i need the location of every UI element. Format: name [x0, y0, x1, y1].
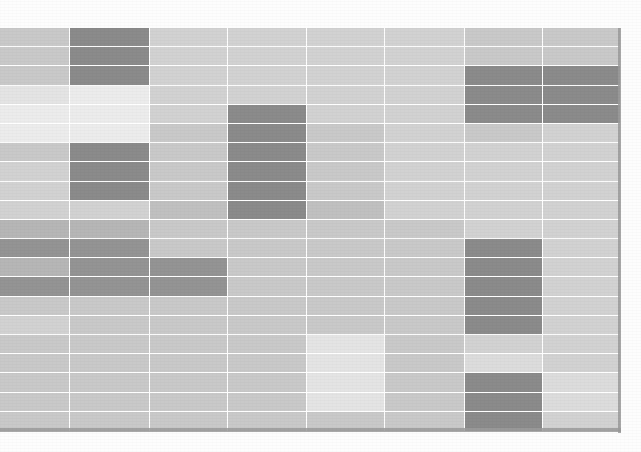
- heatmap-cell: [150, 86, 228, 105]
- heatmap-cell: [150, 258, 228, 277]
- heatmap-cell: [0, 162, 70, 181]
- heatmap-cell: [70, 162, 150, 181]
- figure-page: [0, 0, 641, 452]
- heatmap-cell: [150, 124, 228, 143]
- heatmap-cell: [385, 297, 465, 316]
- heatmap-cell: [385, 316, 465, 335]
- heatmap-cell: [385, 143, 465, 162]
- heatmap-cell: [307, 105, 385, 124]
- heatmap-cell: [0, 124, 70, 143]
- heatmap-cell: [228, 182, 307, 201]
- heatmap-cell: [543, 220, 620, 239]
- heatmap-cell: [307, 393, 385, 412]
- heatmap-cell: [70, 28, 150, 47]
- heatmap-cell: [150, 47, 228, 66]
- heatmap-cell: [385, 86, 465, 105]
- heatmap-cell: [543, 86, 620, 105]
- plot-bottom-edge-shadow: [0, 428, 621, 432]
- heatmap-cell: [307, 124, 385, 143]
- heatmap-cell: [0, 182, 70, 201]
- heatmap-cell: [465, 86, 543, 105]
- heatmap-cell: [307, 335, 385, 354]
- heatmap-cell: [465, 47, 543, 66]
- heatmap-cell: [228, 354, 307, 373]
- heatmap-cell: [385, 201, 465, 220]
- heatmap-cell: [228, 220, 307, 239]
- heatmap-cell: [465, 316, 543, 335]
- heatmap-cell: [150, 373, 228, 392]
- heatmap-cell: [228, 393, 307, 412]
- heatmap-cell: [0, 28, 70, 47]
- heatmap-cell: [385, 66, 465, 85]
- heatmap-cell: [228, 258, 307, 277]
- heatmap-cell: [228, 201, 307, 220]
- heatmap-cell: [150, 239, 228, 258]
- heatmap-cell: [465, 143, 543, 162]
- heatmap-cell: [385, 28, 465, 47]
- heatmap-cell: [543, 297, 620, 316]
- heatmap-cell: [385, 277, 465, 296]
- heatmap-cell: [543, 258, 620, 277]
- heatmap-cell: [0, 143, 70, 162]
- heatmap-cell: [150, 354, 228, 373]
- heatmap-cell: [0, 86, 70, 105]
- heatmap-cell: [465, 220, 543, 239]
- heatmap-cell: [385, 239, 465, 258]
- heatmap-cell: [0, 220, 70, 239]
- heatmap-cell: [0, 354, 70, 373]
- heatmap-cell: [228, 316, 307, 335]
- heatmap-cell: [150, 393, 228, 412]
- heatmap-cell: [228, 373, 307, 392]
- heatmap-cell: [385, 105, 465, 124]
- heatmap-cell: [70, 373, 150, 392]
- heatmap-cell: [307, 47, 385, 66]
- heatmap-cell: [307, 258, 385, 277]
- heatmap-cell: [150, 143, 228, 162]
- heatmap-cell: [228, 105, 307, 124]
- heatmap-cell: [70, 258, 150, 277]
- heatmap-cell: [150, 28, 228, 47]
- heatmap-cell: [543, 143, 620, 162]
- heatmap-cell: [150, 201, 228, 220]
- heatmap-cell: [543, 277, 620, 296]
- heatmap-cell: [543, 335, 620, 354]
- heatmap-cell: [465, 354, 543, 373]
- heatmap-cell: [465, 277, 543, 296]
- heatmap-cell: [385, 182, 465, 201]
- heatmap-cell: [307, 277, 385, 296]
- heatmap-cell: [228, 277, 307, 296]
- heatmap-cell: [543, 124, 620, 143]
- heatmap-cell: [70, 86, 150, 105]
- heatmap-chart: [0, 28, 620, 431]
- heatmap-cell: [0, 393, 70, 412]
- heatmap-cell: [307, 182, 385, 201]
- heatmap-cell: [150, 66, 228, 85]
- heatmap-cell: [228, 28, 307, 47]
- heatmap-cell: [543, 105, 620, 124]
- heatmap-cell: [307, 220, 385, 239]
- heatmap-cell: [307, 86, 385, 105]
- heatmap-cell: [465, 162, 543, 181]
- heatmap-cell: [0, 258, 70, 277]
- heatmap-cell: [307, 66, 385, 85]
- heatmap-cell: [307, 316, 385, 335]
- heatmap-cell: [0, 66, 70, 85]
- heatmap-cell: [150, 335, 228, 354]
- heatmap-cell: [543, 239, 620, 258]
- heatmap-cell: [385, 124, 465, 143]
- heatmap-cell: [228, 143, 307, 162]
- heatmap-cell: [0, 316, 70, 335]
- heatmap-cell: [70, 47, 150, 66]
- heatmap-cell: [228, 124, 307, 143]
- heatmap-cell: [543, 201, 620, 220]
- heatmap-cell: [70, 220, 150, 239]
- heatmap-cell: [543, 354, 620, 373]
- heatmap-cell: [307, 373, 385, 392]
- heatmap-cell: [0, 297, 70, 316]
- heatmap-cell: [150, 182, 228, 201]
- heatmap-cell: [150, 162, 228, 181]
- heatmap-cell: [465, 239, 543, 258]
- heatmap-cell: [465, 28, 543, 47]
- heatmap-cell: [228, 86, 307, 105]
- heatmap-cell: [543, 316, 620, 335]
